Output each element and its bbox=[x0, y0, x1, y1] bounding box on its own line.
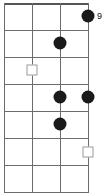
fret-line bbox=[4, 165, 89, 166]
string-line bbox=[32, 3, 33, 193]
fret-line bbox=[4, 3, 89, 5]
position-label: 9 bbox=[97, 12, 102, 21]
fretboard-diagram: 9 bbox=[0, 0, 108, 196]
note-square-marker bbox=[27, 65, 38, 76]
fret-line bbox=[4, 57, 89, 58]
note-dot-marker bbox=[82, 91, 95, 104]
note-dot-marker bbox=[54, 37, 67, 50]
fret-line bbox=[4, 84, 89, 85]
note-dot-marker bbox=[82, 10, 95, 23]
note-dot-marker bbox=[54, 118, 67, 131]
note-dot-marker bbox=[54, 91, 67, 104]
fret-line bbox=[4, 192, 89, 193]
fret-line bbox=[4, 111, 89, 112]
string-line bbox=[4, 3, 5, 193]
fret-line bbox=[4, 138, 89, 139]
note-square-marker bbox=[83, 147, 94, 158]
fret-line bbox=[4, 30, 89, 31]
